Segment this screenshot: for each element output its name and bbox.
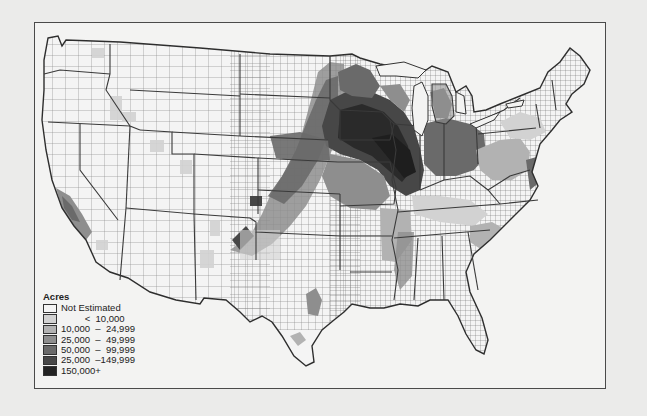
legend-swatch [43, 314, 57, 323]
legend-swatch [43, 325, 57, 334]
legend-swatch [43, 356, 57, 365]
legend-item-150000-plus: 150,000+ [43, 366, 158, 376]
legend-swatch [43, 366, 57, 375]
legend-swatch [43, 304, 57, 313]
legend-label: 150,000+ [61, 366, 101, 376]
legend-swatch [43, 345, 57, 354]
legend-swatch [43, 335, 57, 344]
legend-title: Acres [43, 292, 158, 302]
map-legend: Acres Not Estimated < 10,000 10,000 – 24… [43, 292, 158, 376]
